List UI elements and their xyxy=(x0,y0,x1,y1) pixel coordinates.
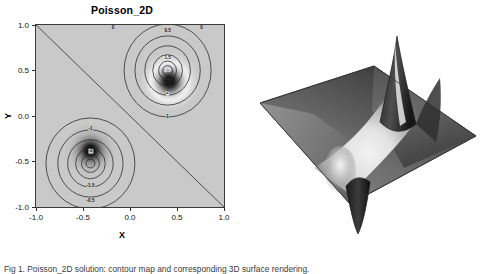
xtick-mark-0 xyxy=(36,208,37,211)
contour-label-zero-top: 0 xyxy=(111,25,115,30)
ytick-label-3: 0.5 xyxy=(18,66,29,75)
xtick-mark-1 xyxy=(83,208,84,211)
contour-label-1: 1 xyxy=(166,115,170,120)
contour-ring-neg0_5 xyxy=(46,118,135,207)
xtick-label-1: -0.5 xyxy=(76,213,90,222)
ytick-mark-0 xyxy=(32,207,35,208)
ytick-mark-3 xyxy=(32,70,35,71)
page-title: Poisson_2D xyxy=(0,4,244,16)
contour-ring-neg1_5 xyxy=(68,140,114,187)
ytick-mark-2 xyxy=(32,116,35,117)
contour-axes: 0.5 1.5 2.5 2 1 -1 -2 -1.5 -0.5 0 0 xyxy=(35,24,225,208)
contour-label-neg-2: -2 xyxy=(88,149,93,154)
contour-label-neg-1-5: -1.5 xyxy=(86,184,95,189)
xtick-label-4: 1.0 xyxy=(218,213,229,222)
xtick-mark-4 xyxy=(224,208,225,211)
xtick-label-2: 0.0 xyxy=(124,213,135,222)
surface-negative-well xyxy=(346,178,370,234)
ytick-label-1: -0.5 xyxy=(15,157,29,166)
contour-label-2-5: 2.5 xyxy=(164,69,172,74)
ytick-label-4: 1.0 xyxy=(18,21,29,30)
xtick-mark-3 xyxy=(177,208,178,211)
surface-plot xyxy=(254,18,482,240)
ytick-mark-4 xyxy=(32,25,35,26)
contour-label-neg-0-5: -0.5 xyxy=(86,198,95,203)
contour-panel: Poisson_2D xyxy=(0,0,244,250)
xtick-label-0: -1.0 xyxy=(29,213,43,222)
y-axis-title: Y xyxy=(3,113,13,119)
density-field: 0.5 1.5 2.5 2 1 -1 -2 -1.5 -0.5 0 0 xyxy=(36,25,224,207)
contour-label-0-top: 0.5 xyxy=(164,29,172,34)
xtick-label-3: 0.5 xyxy=(171,213,182,222)
x-axis-title: X xyxy=(0,230,244,240)
contour-label-2: 2 xyxy=(166,91,170,96)
contour-lines xyxy=(36,25,224,207)
surface-mesh xyxy=(254,18,482,240)
ytick-mark-1 xyxy=(32,161,35,162)
ytick-label-0: -1.0 xyxy=(15,203,29,212)
contour-ring-well xyxy=(86,159,95,168)
xtick-mark-2 xyxy=(130,208,131,211)
contour-label-zero-topright: 0 xyxy=(200,25,204,30)
contour-label-1-5: 1.5 xyxy=(164,55,172,60)
figure-caption: Fig 1. Poisson_2D solution: contour map … xyxy=(4,264,484,274)
surface-panel xyxy=(244,0,488,250)
contour-label-neg-1: -1 xyxy=(88,126,93,131)
contour-ring-neg2_5 xyxy=(82,155,100,173)
ytick-label-2: 0.0 xyxy=(18,112,29,121)
